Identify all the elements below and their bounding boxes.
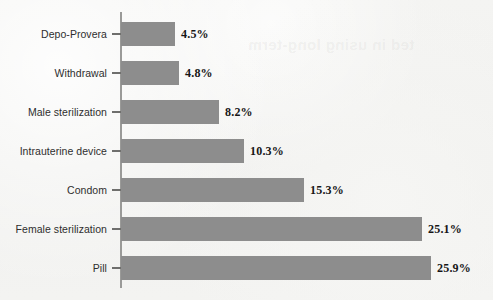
category-label: Pill xyxy=(93,256,107,280)
category-label: Depo-Provera xyxy=(41,22,107,46)
category-label: Male sterilization xyxy=(28,100,107,124)
bar-row: Withdrawal 4.8% xyxy=(0,61,493,85)
category-label: Condom xyxy=(67,178,107,202)
bar-row: Male sterilization 8.2% xyxy=(0,100,493,124)
bar-value-label: 8.2% xyxy=(225,100,253,124)
axis-tick xyxy=(112,228,121,230)
axis-tick xyxy=(112,189,121,191)
bar xyxy=(121,61,179,85)
bar-value-label: 25.1% xyxy=(428,217,462,241)
category-label: Intrauterine device xyxy=(20,139,107,163)
bar xyxy=(121,22,175,46)
bar-value-label: 4.5% xyxy=(181,22,209,46)
axis-tick xyxy=(112,150,121,152)
bar xyxy=(121,256,431,280)
bar xyxy=(121,217,422,241)
bar-value-label: 10.3% xyxy=(250,139,284,163)
category-label: Female sterilization xyxy=(16,217,107,241)
bar-row: Condom 15.3% xyxy=(0,178,493,202)
bar-chart: Depo-Provera 4.5% Withdrawal 4.8% Male s… xyxy=(0,0,493,300)
axis-tick xyxy=(112,111,121,113)
bar-row: Pill 25.9% xyxy=(0,256,493,280)
axis-tick xyxy=(112,72,121,74)
bar xyxy=(121,139,244,163)
bar-value-label: 4.8% xyxy=(185,61,213,85)
axis-tick xyxy=(112,33,121,35)
bar-row: Depo-Provera 4.5% xyxy=(0,22,493,46)
bar-row: Female sterilization 25.1% xyxy=(0,217,493,241)
bar xyxy=(121,178,304,202)
axis-tick xyxy=(112,267,121,269)
bar xyxy=(121,100,219,124)
bar-value-label: 25.9% xyxy=(437,256,471,280)
category-label: Withdrawal xyxy=(55,61,107,85)
bar-value-label: 15.3% xyxy=(310,178,344,202)
bar-row: Intrauterine device 10.3% xyxy=(0,139,493,163)
